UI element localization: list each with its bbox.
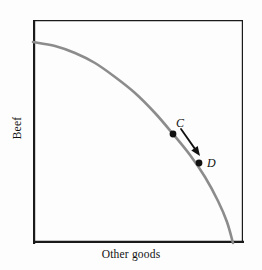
point-c-label: C bbox=[176, 117, 184, 129]
y-axis-label: Beef bbox=[12, 117, 24, 140]
production-possibilities-frontier-figure: C D Other goods Beef bbox=[0, 0, 262, 270]
arrow-head bbox=[191, 146, 200, 156]
point-d-label: D bbox=[207, 157, 216, 169]
plot-frame bbox=[33, 20, 244, 244]
point-c-marker bbox=[170, 131, 177, 138]
chart-canvas bbox=[0, 0, 262, 270]
x-axis-label: Other goods bbox=[0, 249, 262, 261]
ppf-curve bbox=[33, 42, 233, 243]
point-d-marker bbox=[196, 160, 203, 167]
arrow-c-to-d bbox=[181, 129, 200, 156]
